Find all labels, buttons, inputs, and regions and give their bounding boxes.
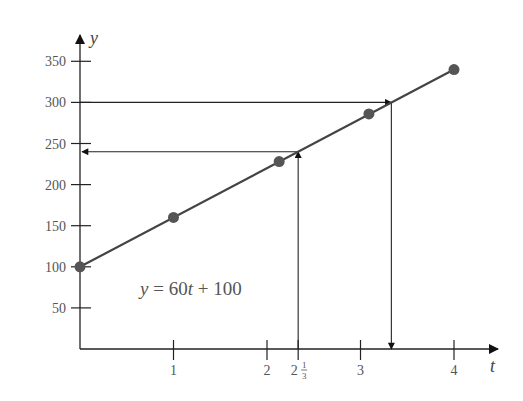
x-tick-label: 2	[291, 363, 298, 378]
y-tick-label: 350	[45, 54, 66, 69]
data-point	[75, 261, 86, 272]
x-tick-label: 3	[357, 363, 364, 378]
x-axis-label: t	[490, 356, 496, 376]
data-point	[274, 156, 285, 167]
guide-arrows	[80, 102, 391, 349]
y-axis-label: y	[88, 28, 98, 48]
data-point	[168, 212, 179, 223]
y-tick-label: 300	[45, 95, 66, 110]
equation-label: y = 60t + 100	[138, 278, 242, 299]
function-line	[80, 70, 454, 267]
x-tick-label: 2	[264, 363, 271, 378]
y-tick-label: 100	[45, 260, 66, 275]
y-tick-label: 200	[45, 178, 66, 193]
x-ticks: 1221334	[170, 340, 458, 381]
y-tick-label: 150	[45, 219, 66, 234]
chart: y t 50100150200250300350 1221334 y = 60t…	[0, 0, 523, 401]
y-ticks: 50100150200250300350	[45, 54, 91, 316]
data-point	[449, 64, 460, 75]
fraction-denominator: 3	[302, 371, 307, 381]
data-point	[363, 108, 374, 119]
fraction-numerator: 1	[302, 360, 307, 370]
data-series	[75, 64, 460, 272]
axes	[80, 35, 498, 349]
x-tick-label: 1	[170, 363, 177, 378]
y-tick-label: 50	[52, 301, 66, 316]
y-tick-label: 250	[45, 137, 66, 152]
x-tick-label: 4	[451, 363, 458, 378]
